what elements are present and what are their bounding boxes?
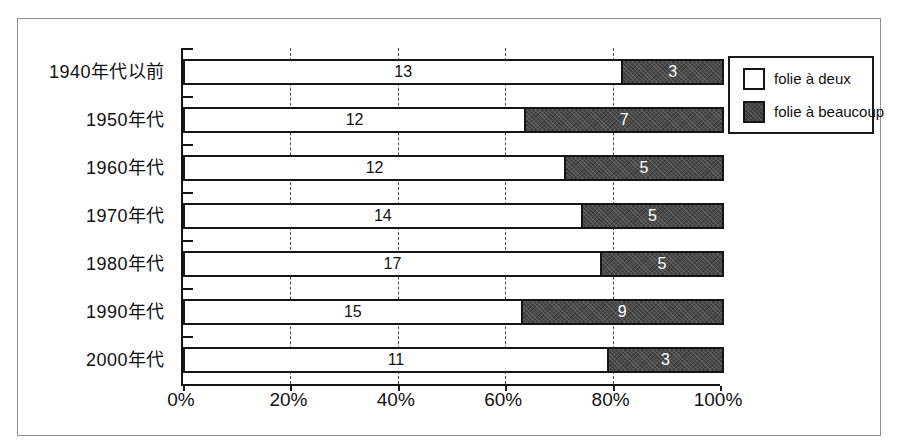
bar-segment-folie-a-beaucoup: 9 (521, 301, 722, 323)
bar-segment-folie-a-deux: 11 (185, 349, 607, 371)
stacked-bar: 127 (183, 107, 724, 133)
stacked-bar: 133 (183, 59, 724, 85)
bar-segment-folie-a-beaucoup: 5 (581, 205, 722, 227)
value-label-folie-a-deux: 17 (384, 256, 402, 272)
legend-swatch-hatched-icon (743, 101, 765, 123)
bar-row: 159 (183, 288, 720, 336)
bar-row: 175 (183, 240, 720, 288)
bar-row: 145 (183, 192, 720, 240)
category-axis-tick (183, 96, 193, 98)
bar-segment-folie-a-deux: 12 (185, 157, 564, 179)
value-label-folie-a-deux: 15 (344, 304, 362, 320)
legend: folie à deux folie à beaucoup (728, 56, 874, 134)
value-label-folie-a-deux: 12 (366, 160, 384, 176)
category-axis-tick (183, 240, 193, 242)
category-label: 1980年代 (10, 240, 165, 288)
stacked-bar: 125 (183, 155, 724, 181)
x-tick-label-100: 100% (694, 390, 743, 409)
bar-segment-folie-a-beaucoup: 5 (600, 253, 722, 275)
x-tick-label-20: 20% (269, 390, 307, 409)
bar-segment-folie-a-beaucoup: 5 (564, 157, 722, 179)
value-label-folie-a-beaucoup: 7 (620, 112, 629, 128)
value-label-folie-a-beaucoup: 9 (618, 304, 627, 320)
category-label: 1960年代 (10, 144, 165, 192)
x-tick-label-60: 60% (484, 390, 522, 409)
bar-segment-folie-a-deux: 13 (185, 61, 621, 83)
category-label: 1990年代 (10, 288, 165, 336)
value-label-folie-a-deux: 14 (374, 208, 392, 224)
page: { "chart_data": { "type": "bar", "orient… (0, 0, 898, 447)
value-label-folie-a-beaucoup: 5 (640, 160, 649, 176)
bar-segment-folie-a-deux: 17 (185, 253, 600, 275)
stacked-bar: 159 (183, 299, 724, 325)
value-label-folie-a-deux: 13 (394, 64, 412, 80)
value-label-folie-a-beaucoup: 3 (668, 64, 677, 80)
legend-label: folie à deux (774, 70, 851, 87)
bar-row: 133 (183, 48, 720, 96)
legend-label: folie à beaucoup (774, 103, 884, 120)
bar-row: 113 (183, 336, 720, 384)
category-axis-tick (183, 288, 193, 290)
bar-segment-folie-a-beaucoup: 7 (524, 109, 722, 131)
legend-item-folie-a-deux: folie à deux (743, 68, 872, 90)
category-label: 1940年代以前 (10, 48, 165, 96)
value-label-folie-a-deux: 12 (346, 112, 364, 128)
x-tick-label-80: 80% (592, 390, 630, 409)
value-label-folie-a-beaucoup: 5 (658, 256, 667, 272)
bar-segment-folie-a-beaucoup: 3 (621, 61, 722, 83)
bar-segment-folie-a-deux: 15 (185, 301, 521, 323)
legend-item-folie-a-beaucoup: folie à beaucoup (743, 101, 872, 123)
value-label-folie-a-deux: 11 (388, 352, 405, 368)
stacked-bar: 113 (183, 347, 724, 373)
stacked-bar: 145 (183, 203, 724, 229)
value-axis-labels: 0% 20% 40% 60% 80% 100% (181, 390, 718, 414)
x-tick-label-40: 40% (377, 390, 415, 409)
bar-segment-folie-a-deux: 14 (185, 205, 581, 227)
category-axis-tick (183, 192, 193, 194)
category-axis-tick (183, 144, 193, 146)
category-axis-tick (183, 336, 193, 338)
legend-swatch-white-icon (743, 68, 765, 90)
bar-row: 127 (183, 96, 720, 144)
category-axis-tick (183, 48, 193, 50)
bar-row: 125 (183, 144, 720, 192)
plot-area: 133127125145175159113 (181, 48, 720, 386)
bar-segment-folie-a-beaucoup: 3 (607, 349, 722, 371)
value-label-folie-a-beaucoup: 3 (661, 352, 670, 368)
figure-box: 1940年代以前1950年代1960年代1970年代1980年代1990年代20… (17, 18, 881, 436)
category-label: 1950年代 (10, 96, 165, 144)
bar-segment-folie-a-deux: 12 (185, 109, 524, 131)
category-label: 1970年代 (10, 192, 165, 240)
category-label: 2000年代 (10, 336, 165, 384)
stacked-bar: 175 (183, 251, 724, 277)
value-label-folie-a-beaucoup: 5 (648, 208, 657, 224)
category-axis-labels: 1940年代以前1950年代1960年代1970年代1980年代1990年代20… (18, 48, 173, 384)
x-tick-label-0: 0% (167, 390, 194, 409)
